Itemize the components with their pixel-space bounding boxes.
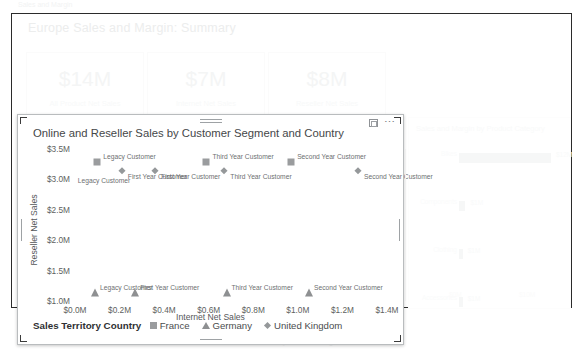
resize-handle-bottom-left[interactable] [20,335,27,342]
square-marker-icon [94,159,101,166]
data-point-label: First Year Customer [161,173,220,180]
resize-handle-top-secondary[interactable] [200,122,222,123]
legend-label: France [160,320,190,331]
legend-title: Sales Territory Country [33,320,141,331]
ghost-axis-tick: $10M [519,291,535,298]
data-point-label: Second Year Customer [364,173,433,180]
triangle-marker-icon [91,289,99,297]
ghost-visual-title: Sales and Margin by Product Category [416,124,545,133]
square-marker-icon [150,322,157,329]
kpi-label: Reseller Net Sales [269,99,385,108]
legend-item-germany[interactable]: Germany [202,320,252,331]
ghost-bar-row[interactable]: Clothing$1M [409,246,564,262]
ghost-bar [459,249,463,259]
report-top-ghost-text: Sales and Margin [18,1,72,8]
data-point-label: Second Year Customer [314,284,383,291]
ghost-bar [459,201,465,211]
diamond-marker-icon [354,168,362,176]
square-marker-icon [288,159,295,166]
ghost-bar-category: Components [411,198,457,205]
resize-handle-top-right[interactable] [394,117,401,124]
more-options-icon[interactable]: ⋯ [384,118,396,127]
resize-handle-right[interactable] [399,219,400,241]
ghost-visual-axis: $0M$10M [449,291,562,300]
triangle-marker-icon [223,289,231,297]
ghost-bar-value: $12M [556,151,572,158]
ghost-bar-chart-visual[interactable]: Sales and Margin by Product Category Bik… [408,117,571,309]
resize-handle-bottom-right[interactable] [394,335,401,342]
legend-item-france[interactable]: France [150,320,189,331]
plot-right-border [405,149,406,301]
data-point-label: Legacy Customer [103,153,155,160]
report-page-title: Europe Sales and Margin: Summary [28,21,236,35]
diamond-marker-icon [264,322,271,329]
triangle-marker-icon [202,322,210,329]
resize-handle-bottom[interactable] [200,339,222,340]
focus-mode-icon[interactable] [369,119,378,127]
kpi-label: Internet Net Sales [148,99,264,108]
ghost-bar-value: $1M [468,247,481,254]
kpi-card-all-product-net-sales[interactable]: $14M All Product Net Sales [26,52,144,117]
data-point-label: Legacy Customer [78,177,130,184]
diamond-marker-icon [118,168,126,176]
triangle-marker-icon [305,289,313,297]
kpi-card-reseller-net-sales[interactable]: $8M Reseller Net Sales [268,52,386,117]
y-axis-title: Reseller Net Sales [29,194,39,265]
legend-item-united-kingdom[interactable]: United Kingdom [264,320,342,331]
diamond-marker-icon [221,168,229,176]
y-tick-label: $2.0M [47,235,70,245]
kpi-card-internet-net-sales[interactable]: $7M Internet Net Sales [147,52,265,117]
resize-handle-top-left[interactable] [20,117,27,124]
triangle-marker-icon [131,289,139,297]
kpi-label: All Product Net Sales [27,99,143,108]
data-point-label: Second Year Customer [297,153,366,160]
resize-handle-top[interactable] [200,119,222,120]
data-point-label: First Year Customer [140,284,199,291]
data-point-label: Third Year Customer [232,284,293,291]
ghost-bar-row[interactable]: Components$1M [409,198,564,214]
y-tick-label: $2.5M [47,205,70,215]
chart-legend: Sales Territory Country France Germany U… [33,320,354,331]
data-point-label: Third Year Customer [230,173,291,180]
kpi-value: $7M [148,67,264,91]
y-tick-label: $3.0M [47,174,70,184]
ghost-bar-value: $1M [470,199,483,206]
y-tick-label: $3.5M [47,144,70,154]
chart-title: Online and Reseller Sales by Customer Se… [33,127,344,139]
ghost-bar-row[interactable]: Bikes$12M [409,150,564,166]
kpi-value: $8M [269,67,385,91]
kpi-value: $14M [27,67,143,91]
legend-label: United Kingdom [274,320,342,331]
ghost-bar-category: Bikes [411,150,457,157]
legend-label: Germany [213,320,252,331]
ghost-axis-tick: $0M [449,291,462,298]
scatter-plot-area[interactable]: $3.5M$3.0M$2.5M$2.0M$1.5M$1.0M $0.0M$0.2… [75,149,387,301]
y-tick-label: $1.5M [47,266,70,276]
resize-handle-left[interactable] [21,219,22,241]
square-marker-icon [203,159,210,166]
data-point-label: Third Year Customer [212,153,273,160]
ghost-bar-category: Clothing [411,246,457,253]
ghost-bar [459,153,551,163]
focused-chart-window[interactable]: ⋯ Online and Reseller Sales by Customer … [17,114,404,345]
